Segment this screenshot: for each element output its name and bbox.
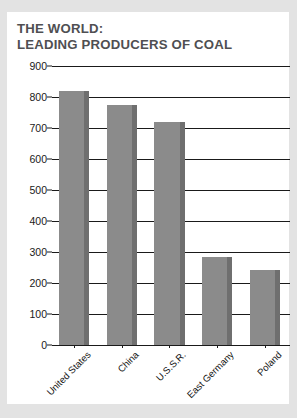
y-tick-label-500: 500 [29, 184, 47, 196]
y-tick-mark-0 [47, 345, 52, 346]
chart-card: THE WORLD: LEADING PRODUCERS OF COAL Mil… [7, 12, 289, 404]
bar-east-germany [202, 257, 232, 345]
y-tick-mark-700 [47, 128, 52, 129]
gridline-900 [52, 66, 290, 67]
x-tick-mark-3 [217, 345, 218, 348]
y-tick-mark-200 [47, 283, 52, 284]
y-tick-label-900: 900 [29, 60, 47, 72]
y-tick-mark-900 [47, 66, 52, 67]
x-tick-mark-4 [265, 345, 266, 348]
x-tick-mark-0 [74, 345, 75, 348]
y-tick-mark-100 [47, 314, 52, 315]
y-tick-label-400: 400 [29, 215, 47, 227]
y-tick-mark-500 [47, 190, 52, 191]
x-tick-mark-1 [122, 345, 123, 348]
y-tick-label-100: 100 [29, 308, 47, 320]
y-tick-label-0: 0 [41, 339, 47, 351]
bar-united-states [59, 91, 89, 345]
title-line-1: THE WORLD: [17, 21, 279, 37]
y-tick-mark-400 [47, 221, 52, 222]
chart-page: THE WORLD: LEADING PRODUCERS OF COAL Mil… [0, 0, 297, 418]
x-tick-label-text: United States [45, 349, 94, 398]
y-tick-mark-300 [47, 252, 52, 253]
x-tick-label-text: U.S.S.R. [154, 349, 188, 383]
x-tick-label-text: Poland [255, 349, 284, 378]
y-tick-mark-600 [47, 159, 52, 160]
x-tick-mark-2 [169, 345, 170, 348]
plot-area: 0100200300400500600700800900United State… [52, 66, 290, 345]
y-tick-label-800: 800 [29, 91, 47, 103]
y-tick-label-200: 200 [29, 277, 47, 289]
bar-u-s-s-r [154, 122, 184, 345]
title-line-2: LEADING PRODUCERS OF COAL [17, 37, 279, 53]
gridline-0 [52, 345, 290, 346]
y-tick-label-300: 300 [29, 246, 47, 258]
bar-poland [250, 270, 280, 345]
y-tick-label-600: 600 [29, 153, 47, 165]
bar-china [107, 105, 137, 345]
y-tick-label-700: 700 [29, 122, 47, 134]
y-tick-mark-800 [47, 97, 52, 98]
x-tick-label-text: China [115, 349, 141, 375]
x-tick-label-text: East Germany [185, 349, 236, 400]
page-title: THE WORLD: LEADING PRODUCERS OF COAL [17, 21, 279, 52]
